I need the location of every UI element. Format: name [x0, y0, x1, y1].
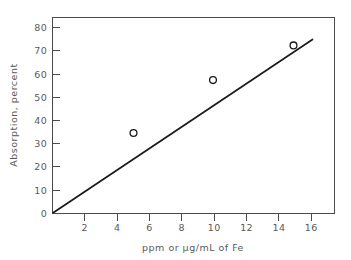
x-axis-title: ppm or µg/mL of Fe: [142, 242, 244, 253]
x-tick-label-6: 6: [146, 222, 152, 233]
y-tick-label-40: 40: [34, 115, 47, 126]
x-tick-label-16: 16: [305, 222, 318, 233]
y-axis-tick-labels: 80 70 60 50 40 30 20 10 0: [34, 22, 47, 219]
y-tick-label-50: 50: [34, 92, 47, 103]
y-tick-label-70: 70: [34, 45, 47, 56]
data-point-1: [130, 130, 137, 137]
x-tick-label-12: 12: [240, 222, 253, 233]
y-tick-label-30: 30: [34, 138, 47, 149]
x-tick-label-10: 10: [208, 222, 221, 233]
y-tick-label-60: 60: [34, 69, 47, 80]
y-axis-title: Absorption, percent: [8, 63, 19, 166]
y-tick-label-10: 10: [34, 185, 47, 196]
x-tick-label-8: 8: [179, 222, 185, 233]
data-point-2: [210, 77, 217, 84]
calibration-curve-chart: 80 70 60 50 40 30 20 10 0 2 4 6 8 10: [0, 0, 351, 260]
y-tick-label-80: 80: [34, 22, 47, 33]
x-tick-label-4: 4: [114, 222, 120, 233]
data-point-3: [290, 42, 297, 49]
x-tick-label-2: 2: [82, 222, 88, 233]
y-tick-label-20: 20: [34, 161, 47, 172]
x-tick-label-14: 14: [273, 222, 286, 233]
chart-figure: 80 70 60 50 40 30 20 10 0 2 4 6 8 10: [0, 0, 351, 260]
y-tick-label-0: 0: [41, 208, 47, 219]
